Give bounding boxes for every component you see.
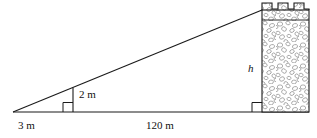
right-angle-marker-stick-icon [63,103,73,113]
label-base-near: 3 m [18,120,35,131]
castle-tower-icon [262,3,309,112]
right-angle-marker-tower-icon [252,103,262,113]
label-stick-height: 2 m [79,89,96,100]
figure-canvas [0,0,317,138]
hypotenuse-line [13,10,262,112]
geometry-figure: 3 m 120 m 2 m h [0,0,317,138]
label-tower-height: h [248,63,254,74]
label-base-far: 120 m [146,120,174,131]
tower-body-fill [262,10,309,112]
